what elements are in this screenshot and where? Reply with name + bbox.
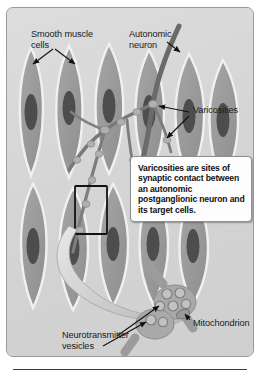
varicosity: [101, 126, 110, 133]
nucleus: [147, 227, 160, 261]
neurotransmitter-vesicle: [168, 301, 178, 311]
label-smooth-muscle-cells: Smooth muscle cells: [31, 29, 93, 51]
varicosity: [95, 151, 102, 157]
varicosity: [82, 201, 90, 208]
varicosity: [73, 157, 81, 163]
figure-panel: Smooth muscle cells Autonomic neuron Var…: [6, 7, 254, 357]
callout-text: Varicosities are sites of synaptic conta…: [138, 163, 245, 215]
varicosity: [117, 119, 125, 126]
label-varicosities: Varicosities: [193, 105, 238, 116]
nucleus: [103, 89, 116, 123]
varicosity: [87, 141, 95, 147]
neurotransmitter-vesicle: [146, 315, 156, 325]
neurotransmitter-vesicle: [155, 301, 164, 310]
varicosity: [149, 100, 158, 107]
nucleus: [187, 229, 200, 263]
varicosity: [133, 109, 141, 116]
nucleus: [63, 91, 76, 125]
varicosity: [88, 177, 96, 184]
neurotransmitter-vesicle: [158, 317, 167, 326]
neurotransmitter-vesicle: [162, 289, 172, 299]
callout-box: Varicosities are sites of synaptic conta…: [130, 156, 252, 222]
neurotransmitter-vesicle: [181, 299, 190, 308]
figure-root: Smooth muscle cells Autonomic neuron Var…: [0, 0, 261, 376]
nucleus: [27, 228, 40, 264]
neurotransmitter-vesicle: [175, 288, 185, 298]
label-autonomic-neuron: Autonomic neuron: [129, 29, 172, 51]
bottom-rule: [13, 369, 247, 370]
nucleus: [107, 227, 120, 261]
nucleus: [25, 94, 38, 130]
label-neurotransmitter-vesicles: Neurotransmitter vesicles: [62, 330, 129, 352]
label-mitochondrion: Mitochondrion: [193, 318, 249, 329]
